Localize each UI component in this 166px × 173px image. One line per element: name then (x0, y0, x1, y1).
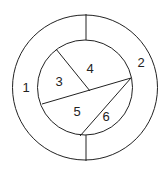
region-label-5: 5 (73, 104, 80, 119)
region-label-3: 3 (55, 74, 62, 89)
outer-circle (13, 15, 158, 160)
region-label-1: 1 (22, 80, 29, 95)
region-label-6: 6 (102, 109, 109, 124)
ring-diagram: 1 2 3 4 5 6 (0, 0, 166, 173)
inner-circle (38, 40, 133, 135)
chord-5-6 (80, 78, 131, 136)
region-label-4: 4 (86, 61, 93, 76)
region-label-2: 2 (137, 55, 144, 70)
